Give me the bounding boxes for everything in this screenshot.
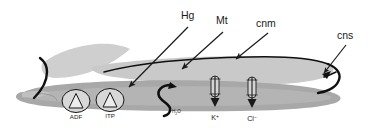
pump-symbol-itp: ITP [96,89,124,120]
ion-channel-label-k: K+ [211,113,219,122]
water-label: H2O [172,109,181,116]
diagram-canvas: Hg Mt cnm cns ADF ITP H2O [0,0,374,128]
ion-channel-k: K+ [210,76,221,122]
pump-label-itp: ITP [105,112,115,119]
epithelial-transport-diagram: Hg Mt cnm cns ADF ITP H2O [0,0,374,128]
leader-cnm [236,33,268,59]
callout-labels: Hg Mt cnm cns [181,9,353,41]
callout-label-cns: cns [337,29,353,41]
callout-label-cnm: cnm [256,17,276,29]
ion-channel-label-cl: Cl− [247,114,257,123]
ion-channel-cl: Cl− [247,77,258,123]
callout-label-hg: Hg [181,9,195,21]
pump-label-adf: ADF [70,113,83,120]
callout-label-mt: Mt [216,14,228,26]
pump-symbol-adf: ADF [62,90,90,121]
